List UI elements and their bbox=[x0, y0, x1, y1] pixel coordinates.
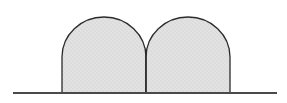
arch-right bbox=[146, 17, 230, 93]
figure-container bbox=[0, 0, 287, 103]
arches-diagram bbox=[0, 0, 287, 103]
arch-left bbox=[62, 17, 146, 93]
